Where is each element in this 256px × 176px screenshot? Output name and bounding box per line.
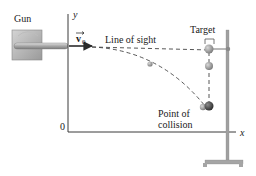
velocity-label: v 0 (76, 32, 86, 47)
line-of-sight-label: Line of sight (105, 34, 156, 45)
target-label: Target (190, 24, 215, 35)
stand-base (205, 160, 243, 164)
collision-label-line1: Point of (158, 108, 191, 119)
target-ball-collision (205, 102, 214, 111)
stand-foot-left (203, 163, 207, 167)
target-ball-falling (205, 62, 213, 70)
gun-barrel (14, 43, 68, 49)
gun (12, 30, 68, 60)
velocity-symbol: v (76, 33, 81, 44)
stand-foot-right (239, 163, 243, 167)
stand-clamp (226, 47, 230, 51)
target-holder (205, 39, 214, 44)
projectile-intermediate-ball (147, 61, 152, 66)
x-axis-label: x (239, 127, 245, 138)
projectile-diagram: Gun y x 0 v 0 Line of sight Target Point… (0, 0, 256, 176)
projectile-trajectory (92, 47, 205, 106)
origin-label: 0 (60, 121, 65, 132)
velocity-subscript: 0 (82, 38, 86, 46)
y-axis-label: y (72, 9, 78, 20)
collision-label-line2: collision (158, 119, 192, 130)
target-ball-initial (205, 45, 214, 54)
gun-label: Gun (14, 13, 31, 24)
